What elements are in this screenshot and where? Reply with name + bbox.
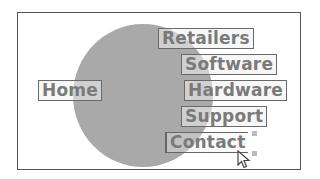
resize-handle-bottom-right[interactable] bbox=[252, 151, 257, 156]
label-contact-selected[interactable]: Contact bbox=[165, 132, 248, 153]
label-retailers[interactable]: Retailers bbox=[158, 28, 254, 49]
label-hardware[interactable]: Hardware bbox=[184, 80, 287, 101]
label-software[interactable]: Software bbox=[181, 54, 277, 75]
mouse-cursor-icon bbox=[237, 150, 251, 170]
resize-handle-top-right[interactable] bbox=[252, 131, 257, 136]
label-support[interactable]: Support bbox=[181, 106, 267, 127]
label-home[interactable]: Home bbox=[38, 80, 102, 101]
